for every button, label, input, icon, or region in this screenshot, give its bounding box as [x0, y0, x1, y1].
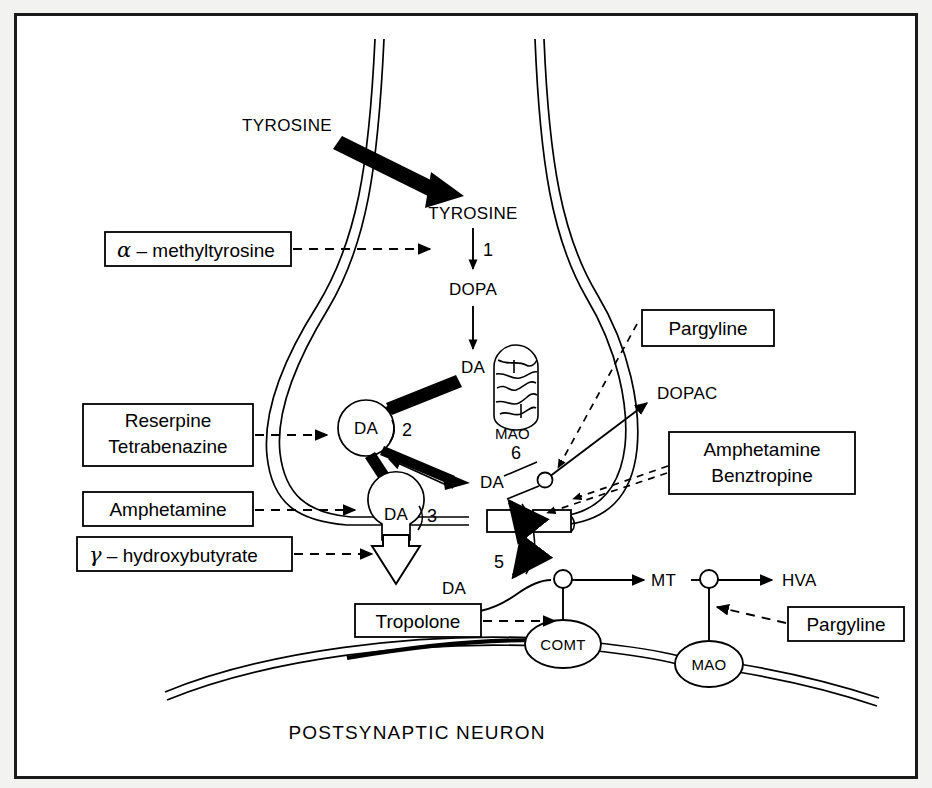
storage-vesicle-3: DA — [368, 472, 424, 540]
drug-label-alpha-methyltyrosine: α – methyltyrosine — [117, 238, 275, 262]
label-step-1: 1 — [483, 240, 493, 260]
exocytosis-hollow-arrow — [372, 535, 420, 584]
drug-label-pargyline-top: Pargyline — [668, 318, 747, 339]
greek-alpha: α — [117, 238, 131, 262]
drug-text-alpha-methyltyrosine: – methyltyrosine — [131, 240, 275, 261]
drug-label-reserpine: Reserpine — [125, 410, 212, 431]
label-mt: MT — [651, 571, 676, 590]
drug-box-alpha-methyltyrosine[interactable]: α – methyltyrosine — [105, 232, 430, 266]
drug-box-reserpine-tetrabenazine[interactable]: Reserpine Tetrabenazine — [83, 404, 327, 466]
drug-box-tropolone[interactable]: Tropolone — [355, 604, 555, 637]
label-da-cytosol: DA — [461, 358, 486, 377]
label-mao-post: MAO — [691, 656, 726, 673]
greek-gamma: γ — [89, 543, 102, 567]
drug-label-benztropine: Benztropine — [711, 465, 812, 486]
drug-label-gamma-hydroxybutyrate: γ – hydroxybutyrate — [89, 543, 258, 567]
label-hva: HVA — [782, 571, 817, 590]
drug-label-tetrabenazine: Tetrabenazine — [108, 436, 227, 457]
label-step-5: 5 — [494, 552, 504, 572]
label-step-2: 2 — [402, 420, 412, 440]
drug-label-amphetamine-left: Amphetamine — [109, 499, 226, 520]
drug-label-amphetamine-right: Amphetamine — [703, 439, 820, 460]
label-dopa: DOPA — [449, 280, 497, 299]
drug-text-gamma-hydroxybutyrate: – hydroxybutyrate — [102, 545, 258, 566]
mao-post-enzyme: MAO — [675, 641, 743, 687]
label-comt: COMT — [540, 636, 585, 653]
label-da-cleft: DA — [442, 579, 467, 598]
mitochondrion — [494, 345, 538, 430]
label-dopac: DOPAC — [657, 384, 718, 403]
drug-box-pargyline-bottom[interactable]: Pargyline — [717, 607, 904, 641]
label-da-vesicle-2: DA — [354, 419, 379, 438]
drug-box-gamma-hydroxybutyrate[interactable]: γ – hydroxybutyrate — [77, 537, 372, 571]
postsynaptic-membrane — [165, 637, 879, 706]
comt-enzyme: COMT — [525, 620, 601, 668]
label-postsynaptic-neuron: POSTSYNAPTIC NEURON — [288, 722, 545, 743]
drug-label-tropolone: Tropolone — [376, 611, 461, 632]
drug-box-amphetamine-left[interactable]: Amphetamine — [83, 492, 355, 526]
figure-frame: TYROSINE TYROSINE 1 DOPA DA DA 2 — [14, 13, 918, 779]
mao-post-reaction-node — [691, 570, 772, 640]
label-tyrosine-internal: TYROSINE — [428, 204, 517, 223]
synapse-diagram: TYROSINE TYROSINE 1 DOPA DA DA 2 — [17, 16, 915, 776]
label-da-vesicle-3: DA — [384, 505, 409, 524]
label-da-released: DA — [480, 473, 505, 492]
label-step-3: 3 — [427, 506, 437, 526]
label-tyrosine-external: TYROSINE — [242, 116, 332, 135]
drug-label-pargyline-bottom: Pargyline — [806, 614, 885, 635]
label-mao-terminal: MAO — [495, 425, 530, 442]
label-step-6: 6 — [511, 443, 521, 463]
tyrosine-uptake-arrow — [333, 136, 464, 208]
